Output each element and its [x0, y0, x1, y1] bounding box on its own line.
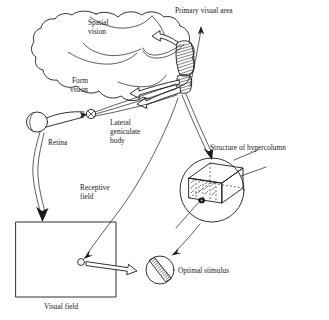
- spatial-vision-block-arrow: [143, 31, 184, 59]
- label-lateral-geniculate-line2: geniculate: [110, 127, 141, 136]
- label-lateral-geniculate-line3: body: [110, 136, 125, 145]
- receptive-field-to-optimal-stimulus-arrow: [86, 262, 137, 275]
- label-primary-visual-area: Primary visual area: [175, 6, 233, 15]
- label-form-vision-line2: vision: [70, 85, 88, 94]
- receptive-field-marker: [78, 259, 85, 266]
- lateral-geniculate-body-symbol: [86, 109, 95, 118]
- retina-to-visual-field-arrow: [33, 132, 49, 222]
- label-visual-field: Visual field: [44, 302, 79, 311]
- label-spatial-vision-line2: vision: [88, 27, 106, 36]
- hypercolumn-to-optimal-stimulus-arrow: [172, 224, 201, 256]
- label-lateral-geniculate-line1: Lateral: [110, 118, 131, 127]
- label-receptive-field-line2: field: [80, 192, 94, 201]
- visual-pathway-figure: Primary visual area Spatial vision Form …: [0, 0, 329, 320]
- label-optimal-stimulus: Optimal stimulus: [178, 266, 229, 275]
- label-form-vision-line1: Form: [72, 76, 88, 85]
- label-receptive-field-line1: Receptive: [80, 183, 110, 192]
- label-structure-of-hypercolumn: Structure of hypercolumn: [210, 143, 286, 152]
- brain-outline: [32, 11, 195, 101]
- visual-field-box: [16, 222, 116, 297]
- primary-visual-area-pointer-arrow: [190, 26, 204, 86]
- label-retina: Retina: [48, 138, 68, 147]
- optimal-stimulus-circle: [146, 256, 174, 284]
- eyeball-retina: [27, 112, 89, 132]
- diagram-canvas: Primary visual area Spatial vision Form …: [0, 0, 329, 320]
- hypercolumn-block: [176, 150, 266, 228]
- label-spatial-vision-line1: Spatial: [88, 18, 109, 27]
- cortex-to-hypercolumn-arrow: [182, 94, 213, 160]
- primary-visual-area-striate-band: [176, 41, 194, 94]
